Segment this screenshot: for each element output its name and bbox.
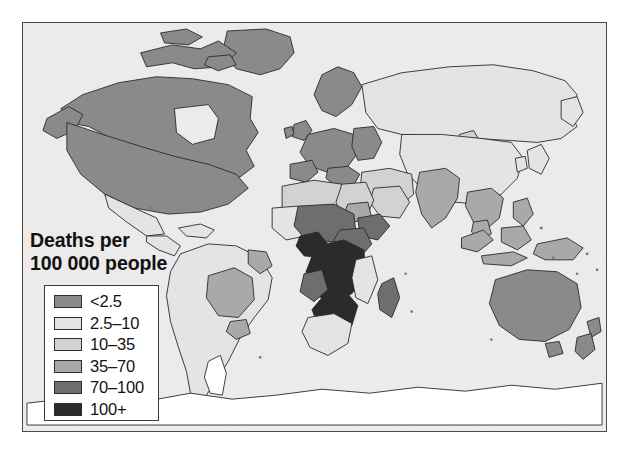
legend-item-label: 70–100 [90,379,144,396]
legend-swatch [54,295,82,308]
legend-box: <2.5 2.5–10 10–35 35–70 70–100 100+ [44,285,159,421]
legend-swatch [54,317,82,330]
legend-item: 70–100 [45,377,158,399]
legend-item: 100+ [45,399,158,421]
legend-swatch [54,403,82,416]
legend-item-label: 35–70 [90,358,135,375]
legend-swatch [54,360,82,373]
legend-item-label: 100+ [90,401,126,418]
legend-item: 2.5–10 [45,313,158,335]
legend-swatch [54,338,82,351]
legend-item: 10–35 [45,334,158,356]
legend-swatch [54,381,82,394]
legend-item-label: <2.5 [90,293,122,310]
legend-item-label: 10–35 [90,336,135,353]
page-canvas: Deaths per 100 000 people <2.5 2.5–10 10… [0,0,631,464]
legend-item: 35–70 [45,356,158,378]
legend-item: <2.5 [45,291,158,313]
legend-item-label: 2.5–10 [90,315,139,332]
region-russia [362,65,577,143]
legend-title: Deaths per 100 000 people [30,229,230,275]
